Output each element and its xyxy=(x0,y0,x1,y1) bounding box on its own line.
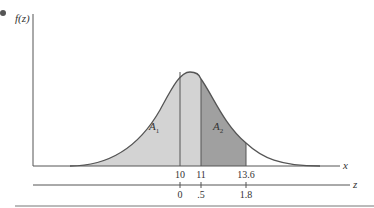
z-tick-0: 0 xyxy=(178,189,183,200)
z-tick-1-8: 1.8 xyxy=(240,189,253,200)
region-a2 xyxy=(201,79,246,166)
x-axis-label: x xyxy=(342,159,348,171)
y-axis-label: f(z) xyxy=(15,12,30,25)
x-tick-13-6: 13.6 xyxy=(237,169,255,180)
x-tick-11: 11 xyxy=(196,169,206,180)
region-a1 xyxy=(70,72,201,166)
bullet-icon xyxy=(0,10,6,16)
x-tick-10: 10 xyxy=(175,169,185,180)
z-axis-label: z xyxy=(352,178,358,190)
z-tick-0-5: .5 xyxy=(197,189,205,200)
normal-distribution-diagram: f(z) x z A1 A2 10 11 13.6 0 .5 1.8 xyxy=(0,0,374,208)
